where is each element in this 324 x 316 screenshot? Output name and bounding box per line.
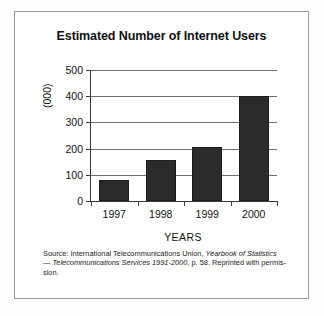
y-tick-label-0: 0 — [77, 195, 83, 207]
source-note-line-3: sion. — [43, 268, 291, 277]
source-note-line-2-suffix: , p. 58. Reprinted with permis- — [187, 258, 286, 267]
source-note-line-1: Source: International Telecommunications… — [43, 249, 291, 258]
bar-group-1998: 1998 — [138, 70, 185, 201]
bar-1998 — [146, 160, 176, 201]
source-note-line-1-italic: Yearbook of Statistics — [206, 249, 277, 258]
x-tick-mark-1998 — [138, 201, 139, 206]
y-tick-label-100: 100 — [65, 169, 83, 181]
x-tick-label-1998: 1998 — [149, 208, 172, 220]
y-axis-label: (000) — [41, 83, 53, 108]
source-note-line-2: — Telecommunications Services 1991-2000,… — [43, 258, 291, 267]
x-tick-mark-2000 — [231, 201, 232, 206]
x-tick-mark-1999 — [184, 201, 185, 206]
y-tick-label-300: 300 — [65, 116, 83, 128]
x-tick-mark-end — [277, 201, 278, 206]
bar-2000 — [239, 96, 269, 201]
source-note-line-2-italic: Telecommunications Services 1991-2000 — [52, 258, 187, 267]
y-tick-label-200: 200 — [65, 143, 83, 155]
figure-page: Estimated Number of Internet Users (000)… — [0, 0, 324, 316]
x-tick-label-2000: 2000 — [242, 208, 265, 220]
y-tick-label-500: 500 — [65, 64, 83, 76]
x-tick-mark-1997 — [91, 201, 92, 206]
x-axis-label: YEARS — [90, 231, 276, 243]
bar-group-2000: 2000 — [231, 70, 278, 201]
bar-1997 — [99, 180, 129, 201]
y-tick-label-400: 400 — [65, 90, 83, 102]
source-note-line-1-text: Source: International Telecommunications… — [43, 249, 206, 258]
plot-area: 0100200300400500 1997199819992000 — [90, 70, 277, 202]
figure-frame: Estimated Number of Internet Users (000)… — [14, 11, 309, 299]
bar-1999 — [192, 147, 222, 201]
bar-group-1997: 1997 — [91, 70, 138, 201]
source-note: Source: International Telecommunications… — [43, 249, 291, 277]
x-tick-label-1997: 1997 — [103, 208, 126, 220]
bars-layer: 1997199819992000 — [91, 70, 277, 201]
x-tick-label-1999: 1999 — [196, 208, 219, 220]
bar-group-1999: 1999 — [184, 70, 231, 201]
